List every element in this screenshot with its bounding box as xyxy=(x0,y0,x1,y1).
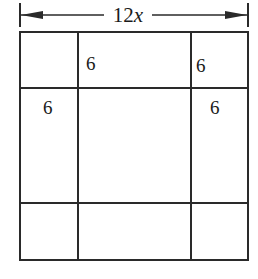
label-right-middle: 6 xyxy=(210,97,220,118)
outer-square xyxy=(20,32,248,260)
square-grid xyxy=(20,32,248,260)
left-arrowhead-icon xyxy=(21,11,43,19)
dimension-label: 12x xyxy=(113,3,144,27)
box-net-diagram: 12x 6 6 6 6 xyxy=(0,0,258,279)
label-top-right: 6 xyxy=(196,55,206,76)
label-top-middle: 6 xyxy=(86,53,96,74)
label-left-middle: 6 xyxy=(43,97,53,118)
right-arrowhead-icon xyxy=(225,11,247,19)
